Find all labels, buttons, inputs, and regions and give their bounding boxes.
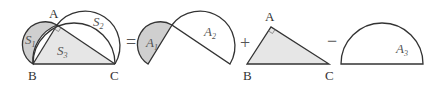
panel-combined: A B C S1 S2 S3	[22, 6, 119, 83]
panel-semicircles: A1 A2	[137, 11, 234, 64]
point-b-label: B	[28, 68, 37, 83]
panel-semicircle-a3: A3	[341, 23, 423, 64]
point-c-label-2: C	[325, 68, 334, 83]
minus-sign: −	[327, 31, 337, 51]
semicircle-a3	[341, 23, 423, 64]
equals-sign: =	[126, 32, 136, 52]
point-a-label: A	[49, 6, 59, 21]
plus-sign: +	[240, 33, 250, 53]
lune-diagram: A B C S1 S2 S3 = A1 A2 + A B C − A3	[0, 0, 441, 86]
point-b-label-2: B	[243, 68, 252, 83]
point-a-label-2: A	[265, 9, 275, 24]
triangle-abc-alone	[247, 27, 329, 64]
region-s2-label: S2	[93, 14, 104, 31]
point-c-label: C	[110, 68, 119, 83]
panel-triangle: A B C	[243, 9, 334, 83]
